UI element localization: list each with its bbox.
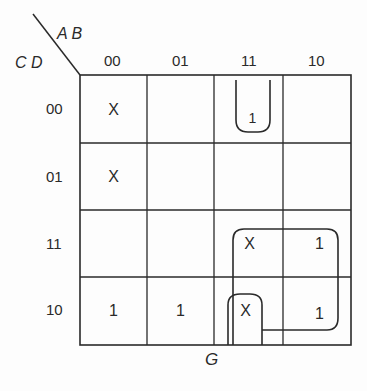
cell-10-00: 1	[80, 277, 147, 344]
row-label-11: 11	[46, 235, 62, 252]
col-label-11: 11	[241, 52, 257, 69]
cell-10-10: 1	[286, 280, 353, 347]
cell-01-10	[283, 143, 350, 210]
cell-11-01	[147, 210, 214, 277]
row-variable-label: C D	[15, 54, 43, 72]
cell-11-10: 1	[286, 210, 353, 277]
cell-00-10	[283, 76, 350, 143]
cell-10-01: 1	[147, 277, 214, 344]
col-variable-label: A B	[57, 25, 82, 43]
cell-00-00: X	[80, 76, 147, 143]
col-label-00: 00	[104, 52, 121, 69]
col-label-10: 10	[308, 52, 325, 69]
col-label-01: 01	[172, 52, 189, 69]
cell-11-00	[80, 210, 147, 277]
cell-11-11: X	[216, 210, 283, 277]
cell-01-01	[147, 143, 214, 210]
cell-01-00: X	[80, 143, 147, 210]
row-label-00: 00	[46, 100, 63, 117]
cell-01-11	[214, 143, 281, 210]
output-label: G	[205, 350, 218, 370]
cell-10-11: X	[212, 277, 279, 344]
row-label-01: 01	[46, 168, 63, 185]
cell-00-01	[147, 76, 214, 143]
cell-00-11: 1	[219, 84, 286, 151]
row-label-10: 10	[46, 301, 63, 318]
